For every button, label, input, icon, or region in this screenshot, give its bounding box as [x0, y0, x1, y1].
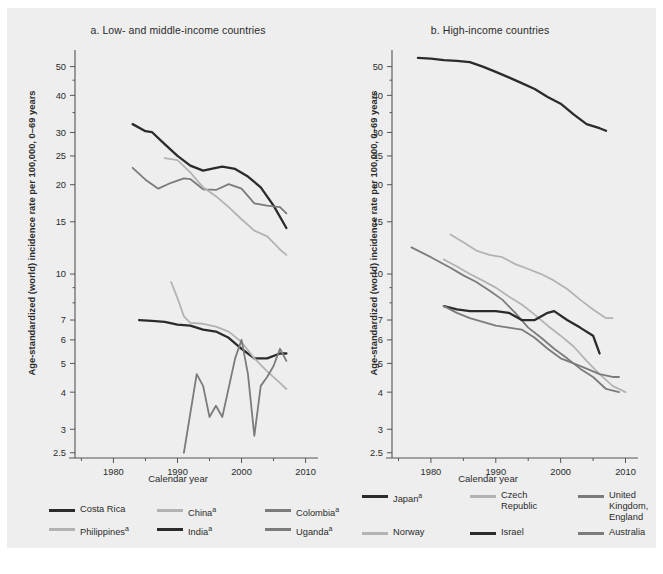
legend-item-norway[interactable]: Norway — [362, 527, 458, 538]
legend-label: Chinaa — [188, 504, 216, 519]
legend-label: Indiaa — [188, 523, 212, 538]
panel-a-plot: 2.534567101520253040501980199020002010 — [7, 8, 337, 478]
legend-label: Ugandaa — [296, 523, 332, 538]
panel-b-plot: 2.534567101520253040501980199020002010 — [332, 8, 656, 478]
series-line-japan — [418, 58, 606, 131]
figure-panel: a. Low- and middle-income countries Age-… — [7, 8, 656, 548]
series-line-costa-rica — [133, 124, 287, 228]
legend-swatch-icon — [362, 532, 388, 535]
legend-item-australia[interactable]: Australia — [578, 527, 656, 538]
svg-text:50: 50 — [373, 62, 383, 72]
legend-swatch-icon — [470, 495, 496, 498]
legend-footnote-marker: a — [212, 506, 216, 513]
svg-text:3: 3 — [378, 425, 383, 435]
svg-text:30: 30 — [56, 128, 66, 138]
legend-label: Japana — [393, 490, 422, 505]
chart-panel-b: b. High-income countries Age-standardize… — [332, 8, 656, 548]
svg-text:2.5: 2.5 — [370, 448, 383, 458]
legend-swatch-icon — [157, 509, 183, 512]
legend-label: Czech Republic — [501, 490, 566, 512]
legend-row: Costa RicaChinaaColombiaa — [7, 504, 337, 519]
svg-text:20: 20 — [56, 180, 66, 190]
panel-a-legend: Costa RicaChinaaColombiaaPhilippinesaInd… — [7, 504, 337, 542]
legend-swatch-icon — [470, 532, 496, 535]
svg-text:10: 10 — [373, 269, 383, 279]
legend-swatch-icon — [362, 495, 388, 498]
svg-text:4: 4 — [378, 388, 383, 398]
svg-text:5: 5 — [61, 359, 66, 369]
legend-label: Australia — [609, 527, 645, 538]
legend-footnote-marker: a — [208, 525, 212, 532]
svg-text:7: 7 — [61, 315, 66, 325]
legend-swatch-icon — [265, 509, 291, 512]
legend-swatch-icon — [578, 532, 604, 535]
svg-text:5: 5 — [378, 359, 383, 369]
svg-text:25: 25 — [373, 151, 383, 161]
legend-item-japan[interactable]: Japana — [362, 490, 458, 523]
legend-label: United Kingdom, England — [609, 490, 656, 523]
series-line-united-kingdom-england — [411, 247, 619, 392]
legend-label: Costa Rica — [80, 504, 125, 515]
svg-text:7: 7 — [378, 315, 383, 325]
legend-swatch-icon — [49, 509, 75, 512]
svg-text:15: 15 — [373, 217, 383, 227]
panel-a-x-axis-label: Calendar year — [13, 473, 343, 484]
svg-text:4: 4 — [61, 388, 66, 398]
legend-item-india[interactable]: Indiaa — [157, 523, 253, 538]
legend-footnote-marker: a — [125, 525, 129, 532]
svg-text:50: 50 — [56, 62, 66, 72]
legend-label: Norway — [393, 527, 425, 538]
svg-text:20: 20 — [373, 180, 383, 190]
svg-text:2.5: 2.5 — [53, 448, 66, 458]
panel-b-x-axis-label: Calendar year — [326, 473, 650, 484]
legend-item-philippines[interactable]: Philippinesa — [49, 523, 145, 538]
legend-row: PhilippinesaIndiaaUgandaa — [7, 523, 337, 538]
legend-item-czech-republic[interactable]: Czech Republic — [470, 490, 566, 523]
chart-panel-a: a. Low- and middle-income countries Age-… — [7, 8, 337, 548]
svg-text:6: 6 — [378, 335, 383, 345]
svg-text:15: 15 — [56, 217, 66, 227]
legend-swatch-icon — [49, 528, 75, 531]
legend-row: NorwayIsraelAustralia — [332, 527, 656, 538]
legend-swatch-icon — [157, 528, 183, 531]
svg-text:6: 6 — [61, 335, 66, 345]
legend-swatch-icon — [578, 495, 604, 498]
svg-text:3: 3 — [61, 425, 66, 435]
legend-item-israel[interactable]: Israel — [470, 527, 566, 538]
legend-item-costa-rica[interactable]: Costa Rica — [49, 504, 145, 519]
svg-text:30: 30 — [373, 128, 383, 138]
legend-swatch-icon — [265, 528, 291, 531]
svg-text:10: 10 — [56, 269, 66, 279]
legend-item-china[interactable]: Chinaa — [157, 504, 253, 519]
legend-row: JapanaCzech RepublicUnited Kingdom, Engl… — [332, 490, 656, 523]
legend-item-united-kingdom-england[interactable]: United Kingdom, England — [578, 490, 656, 523]
svg-text:40: 40 — [373, 91, 383, 101]
svg-text:25: 25 — [56, 151, 66, 161]
legend-label: Philippinesa — [80, 523, 129, 538]
legend-label: Israel — [501, 527, 524, 538]
legend-footnote-marker: a — [418, 492, 422, 499]
svg-text:40: 40 — [56, 91, 66, 101]
panel-b-legend: JapanaCzech RepublicUnited Kingdom, Engl… — [332, 490, 656, 542]
